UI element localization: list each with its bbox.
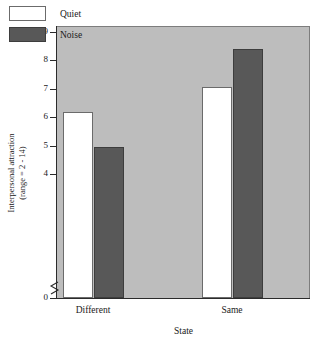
axis-break-icon	[49, 279, 61, 295]
bar-different-quiet	[63, 112, 93, 298]
legend-swatch-quiet	[9, 6, 46, 21]
y-tick-6	[50, 117, 57, 118]
legend-label-noise: Noise	[60, 30, 82, 40]
plot-area	[57, 26, 310, 298]
y-tick-label-0: 0	[28, 292, 48, 302]
legend-swatch-noise	[9, 27, 46, 42]
y-tick-7	[50, 89, 57, 90]
y-axis-label-line2: (range = 2 - 14)	[17, 133, 28, 212]
y-axis-label-line1: Interpersonal attraction	[6, 133, 17, 212]
x-axis-label: State	[57, 326, 310, 336]
y-tick-label-6: 6	[28, 111, 48, 121]
y-tick-label-8: 8	[28, 54, 48, 64]
y-axis-spine	[56, 26, 57, 299]
x-tick-label-same: Same	[187, 305, 277, 315]
bar-same-noise	[233, 49, 263, 298]
bar-same-quiet	[202, 87, 232, 298]
bar-chart-figure: Interpersonal attraction (range = 2 - 14…	[0, 0, 326, 342]
y-tick-0	[50, 298, 57, 299]
y-tick-label-7: 7	[28, 83, 48, 93]
legend-item-quiet: Quiet	[9, 6, 129, 21]
y-tick-label-5: 5	[28, 140, 48, 150]
y-tick-label-4: 4	[28, 168, 48, 178]
x-axis-spine	[56, 298, 310, 299]
legend: Quiet Noise	[9, 6, 129, 48]
y-tick-8	[50, 60, 57, 61]
x-tick-label-different: Different	[48, 305, 138, 315]
legend-label-quiet: Quiet	[60, 9, 81, 19]
y-tick-4	[50, 174, 57, 175]
bar-different-noise	[94, 147, 124, 298]
y-tick-5	[50, 146, 57, 147]
legend-item-noise: Noise	[9, 27, 129, 42]
